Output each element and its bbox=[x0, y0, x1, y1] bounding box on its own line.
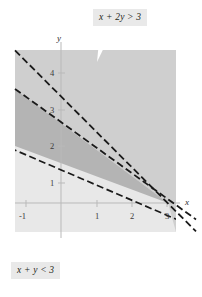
x-tick-label-3: 3 bbox=[165, 211, 169, 221]
callout-pointer-bottom bbox=[38, 232, 57, 262]
y-tick-label-1: 1 bbox=[50, 178, 54, 188]
x-tick-label-2: 2 bbox=[130, 211, 134, 221]
inequality-graph-figure bbox=[0, 0, 202, 297]
x-tick-label-neg1: -1 bbox=[19, 211, 26, 221]
callout-x-plus-y-lt-3: x + y < 3 bbox=[11, 262, 60, 279]
y-tick-label-3: 3 bbox=[50, 105, 54, 115]
y-tick-label-2: 2 bbox=[50, 141, 54, 151]
x-axis-label: x bbox=[185, 197, 189, 207]
x-tick-label-1: 1 bbox=[95, 211, 99, 221]
y-tick-label-4: 4 bbox=[50, 68, 54, 78]
callout-x-plus-2y-gt-3: x + 2y > 3 bbox=[93, 9, 147, 26]
y-axis-label: y bbox=[57, 33, 61, 43]
